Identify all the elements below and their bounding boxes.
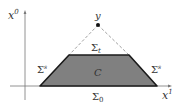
- apex-label: y: [94, 10, 101, 21]
- sigma-t-label: Σt: [91, 42, 101, 55]
- sigma-s-right-label: Σs: [151, 63, 161, 75]
- sigma-s-left-label: Σs: [37, 63, 47, 75]
- sigma-0-label: Σ0: [92, 91, 104, 104]
- spacetime-diagram: x0 y Σt C Σs Σs Σ0 x1: [0, 0, 183, 108]
- vertical-axis-arrow-icon: [24, 10, 27, 14]
- horizontal-axis-label: x1: [162, 88, 173, 102]
- dashed-cone-right: [98, 25, 129, 55]
- apex-point: [96, 23, 100, 27]
- region-c-label: C: [94, 67, 102, 78]
- horizontal-axis-arrow-icon: [168, 85, 172, 88]
- vertical-axis-label: x0: [8, 8, 19, 22]
